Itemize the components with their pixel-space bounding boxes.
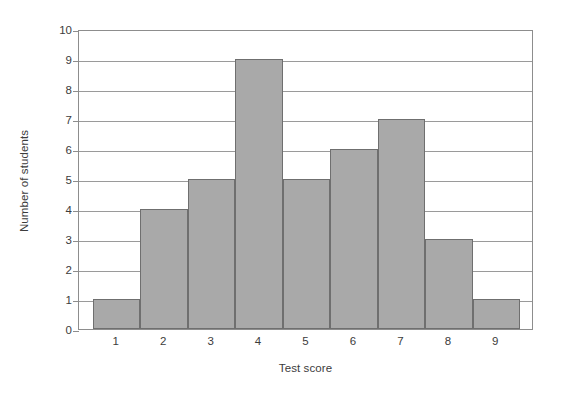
y-tick-label: 1 <box>66 295 72 307</box>
bar <box>188 179 235 329</box>
x-tick-label: 2 <box>139 336 186 348</box>
bar <box>378 119 425 329</box>
y-tick-label: 2 <box>66 265 72 277</box>
x-tick-label: 8 <box>424 336 471 348</box>
bar-series <box>79 31 532 329</box>
y-tick-mark <box>73 331 79 332</box>
y-axis-title: Number of students <box>18 111 30 251</box>
bar <box>283 179 330 329</box>
y-tick-label: 3 <box>66 235 72 247</box>
y-tick-label: 10 <box>59 25 72 37</box>
y-tick-label: 7 <box>66 115 72 127</box>
y-tick-label: 6 <box>66 145 72 157</box>
histogram-figure: Number of students 012345678910 12345678… <box>0 0 563 397</box>
x-tick-label: 4 <box>234 336 281 348</box>
y-tick-label: 9 <box>66 55 72 67</box>
y-tick-label: 0 <box>66 325 72 337</box>
bar <box>473 299 520 329</box>
bar <box>93 299 140 329</box>
x-tick-label: 9 <box>472 336 519 348</box>
plot-area: 012345678910 <box>78 30 533 330</box>
x-tick-label: 3 <box>187 336 234 348</box>
x-tick-label: 7 <box>377 336 424 348</box>
x-axis-title: Test score <box>78 362 533 374</box>
x-tick-label: 6 <box>329 336 376 348</box>
bar <box>140 209 187 329</box>
x-tick-label: 1 <box>92 336 139 348</box>
x-tick-label: 5 <box>282 336 329 348</box>
bar <box>330 149 377 329</box>
bar <box>235 59 282 329</box>
y-tick-label: 5 <box>66 175 72 187</box>
bar <box>425 239 472 329</box>
y-tick-label: 4 <box>66 205 72 217</box>
y-tick-label: 8 <box>66 85 72 97</box>
